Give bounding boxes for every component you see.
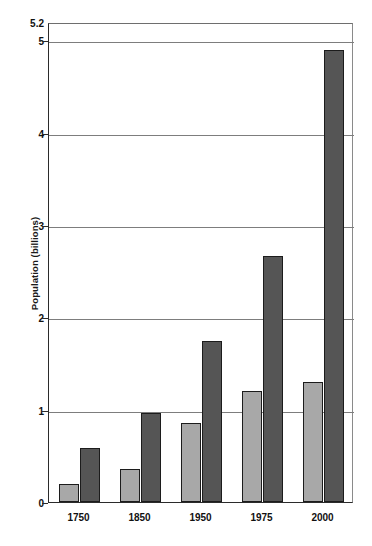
y-tick-mark-0 (42, 503, 48, 504)
y-tick-label-3: 3 (0, 221, 44, 232)
population-bar-chart: Population (billions) 0123455.2 17501850… (0, 0, 372, 546)
gridline-5 (49, 42, 354, 43)
bar-1850-light-gray-series (120, 469, 140, 502)
x-tick-label-1750: 1750 (67, 512, 89, 523)
bar-1950-light-gray-series (181, 423, 201, 502)
gridline-2 (49, 319, 354, 320)
y-tick-label-2: 2 (0, 313, 44, 324)
bar-1750-dark-gray-series (80, 448, 100, 502)
x-tick-label-1850: 1850 (128, 512, 150, 523)
bar-1750-light-gray-series (59, 484, 79, 502)
y-tick-label-4: 4 (0, 128, 44, 139)
x-tick-label-1950: 1950 (189, 512, 211, 523)
bar-1975-dark-gray-series (263, 256, 283, 502)
bar-1950-dark-gray-series (202, 341, 222, 502)
y-tick-label-5: 5 (0, 36, 44, 47)
bar-2000-dark-gray-series (324, 50, 344, 502)
y-tick-label-5.2: 5.2 (0, 18, 44, 29)
y-tick-label-1: 1 (0, 405, 44, 416)
y-axis-title: Population (billions) (29, 169, 40, 359)
gridline-3 (49, 227, 354, 228)
bar-2000-light-gray-series (303, 382, 323, 502)
plot-area (48, 23, 353, 503)
gridline-4 (49, 135, 354, 136)
x-tick-label-1975: 1975 (250, 512, 272, 523)
bar-1975-light-gray-series (242, 391, 262, 502)
y-tick-label-0: 0 (0, 498, 44, 509)
bar-1850-dark-gray-series (141, 413, 161, 502)
x-tick-label-2000: 2000 (311, 512, 333, 523)
